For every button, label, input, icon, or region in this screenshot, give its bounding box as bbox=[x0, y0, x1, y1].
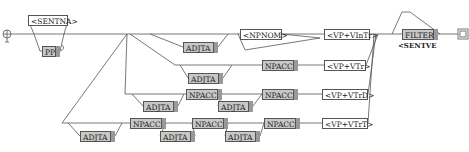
npacc-node[interactable]: NPACC bbox=[192, 118, 228, 129]
vp-vtr-node[interactable]: <VP+VTr> bbox=[324, 60, 366, 71]
adjta-node[interactable]: ADJTA bbox=[218, 101, 253, 112]
grammar-graph: <SENTNA> PP ADJTA <NPNOM> <VP+VInTr> ADJ… bbox=[0, 0, 469, 152]
vp-vintr-node[interactable]: <VP+VInTr> bbox=[324, 29, 370, 40]
npacc-node[interactable]: NPACC bbox=[186, 89, 222, 100]
sentna-node[interactable]: <SENTNA> bbox=[28, 15, 68, 26]
adjta-node[interactable]: ADJTA bbox=[143, 101, 178, 112]
adjta-node[interactable]: ADJTA bbox=[80, 131, 115, 142]
npacc-node[interactable]: NPACC bbox=[264, 118, 300, 129]
filter-node[interactable]: FILTER bbox=[402, 29, 438, 40]
npacc-node[interactable]: NPACC bbox=[130, 118, 166, 129]
adjta-node[interactable]: ADJTA bbox=[225, 131, 260, 142]
initial-state-icon bbox=[3, 30, 11, 42]
npacc-node[interactable]: NPACC bbox=[262, 89, 298, 100]
vp-vtrd-node[interactable]: <VP+VTrD> bbox=[322, 89, 368, 100]
adjta-node[interactable]: ADJTA bbox=[183, 42, 218, 53]
sentve-output-label: <SENTVE bbox=[398, 41, 437, 50]
final-state-icon bbox=[458, 29, 468, 39]
vp-vtrt-node[interactable]: <VP+VTrT> bbox=[322, 118, 368, 129]
adjta-node[interactable]: ADJTA bbox=[160, 131, 195, 142]
npacc-node[interactable]: NPACC bbox=[262, 60, 298, 71]
npnom-node[interactable]: <NPNOM> bbox=[240, 29, 282, 40]
pp-node[interactable]: PP bbox=[42, 46, 60, 57]
adjta-node[interactable]: ADJTA bbox=[188, 73, 223, 84]
